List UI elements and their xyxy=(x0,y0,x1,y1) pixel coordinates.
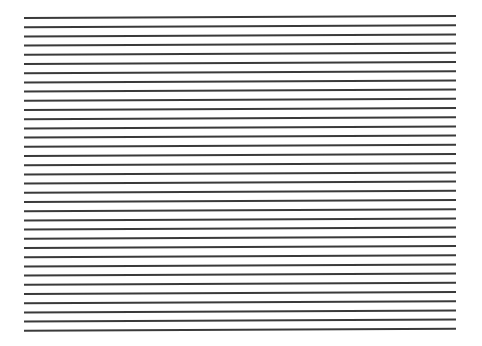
ruled-line xyxy=(24,264,456,266)
ruled-line xyxy=(24,209,456,211)
ruled-line xyxy=(24,191,456,193)
ruled-line xyxy=(24,172,456,174)
ruled-line xyxy=(24,228,456,230)
ruled-line xyxy=(24,320,456,322)
ruled-line xyxy=(24,218,456,220)
ruled-line xyxy=(24,237,456,239)
ruled-line xyxy=(24,25,456,27)
ruled-line xyxy=(24,182,456,184)
ruled-line xyxy=(24,283,456,285)
ruled-line xyxy=(24,62,456,64)
ruled-line xyxy=(24,117,456,119)
ruled-line xyxy=(24,44,456,46)
ruled-line xyxy=(24,145,456,147)
ruled-line xyxy=(24,301,456,303)
ruled-line xyxy=(24,99,456,101)
ruled-line xyxy=(24,136,456,138)
ruled-line xyxy=(24,274,456,276)
ruled-line xyxy=(24,246,456,248)
ruled-line xyxy=(24,108,456,110)
ruled-line xyxy=(24,163,456,165)
ruled-line xyxy=(24,200,456,202)
ruled-line xyxy=(24,16,456,18)
ruled-line xyxy=(24,90,456,92)
ruled-line xyxy=(24,310,456,312)
ruled-lines xyxy=(0,0,482,346)
ruled-line xyxy=(24,80,456,82)
ruled-line xyxy=(24,292,456,294)
ruled-line xyxy=(24,34,456,36)
ruled-line xyxy=(24,154,456,156)
ruled-line xyxy=(24,255,456,257)
ruled-line xyxy=(24,53,456,55)
ruled-line xyxy=(24,329,456,331)
ruled-line xyxy=(24,126,456,128)
ruled-line xyxy=(24,71,456,73)
